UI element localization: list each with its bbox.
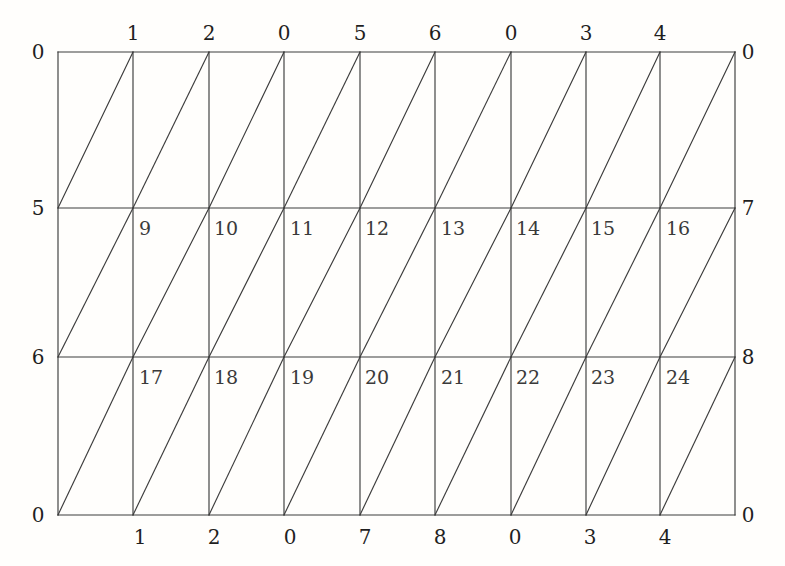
mesh-diagonal-r1-c0 bbox=[58, 208, 133, 357]
top-boundary-label-7: 4 bbox=[654, 23, 667, 43]
interior-middle-row-label-5: 14 bbox=[516, 219, 540, 238]
top-boundary-label-2: 0 bbox=[278, 23, 291, 43]
mesh-diagonal-r0-c0 bbox=[58, 52, 133, 208]
interior-middle-row-label-7: 16 bbox=[666, 219, 690, 238]
mesh-diagonal-r0-c8 bbox=[660, 52, 735, 208]
left-boundary-label-3: 0 bbox=[32, 505, 45, 525]
bottom-boundary-label-1: 2 bbox=[208, 527, 221, 547]
right-boundary-label-3: 0 bbox=[742, 505, 755, 525]
top-boundary-label-4: 6 bbox=[429, 23, 442, 43]
mesh-diagonal-r0-c7 bbox=[586, 52, 660, 208]
interior-lower-row-label-6: 23 bbox=[591, 368, 615, 387]
figure-root: 1205603412078034056007809101112131415161… bbox=[0, 0, 785, 566]
top-boundary-label-1: 2 bbox=[203, 23, 216, 43]
left-boundary-label-0: 0 bbox=[32, 42, 45, 62]
right-boundary-label-2: 8 bbox=[742, 347, 755, 367]
mesh-diagonal-r0-c6 bbox=[511, 52, 586, 208]
right-boundary-label-1: 7 bbox=[742, 198, 755, 218]
mesh-diagonal-r0-c1 bbox=[133, 52, 209, 208]
interior-middle-row-label-6: 15 bbox=[591, 219, 615, 238]
mesh-diagonal-r0-c5 bbox=[435, 52, 511, 208]
mesh-diagram bbox=[0, 0, 785, 566]
bottom-boundary-label-5: 0 bbox=[509, 527, 522, 547]
interior-middle-row-label-4: 13 bbox=[441, 219, 465, 238]
mesh-diagonal-r0-c2 bbox=[209, 52, 284, 208]
bottom-boundary-label-2: 0 bbox=[284, 527, 297, 547]
left-boundary-label-1: 5 bbox=[32, 198, 45, 218]
bottom-boundary-label-4: 8 bbox=[434, 527, 447, 547]
mesh-diagonal-r2-c0 bbox=[58, 357, 133, 515]
interior-lower-row-label-1: 18 bbox=[214, 368, 238, 387]
top-boundary-label-6: 3 bbox=[580, 23, 593, 43]
interior-lower-row-label-7: 24 bbox=[666, 368, 690, 387]
top-boundary-label-5: 0 bbox=[505, 23, 518, 43]
interior-lower-row-label-4: 21 bbox=[441, 368, 465, 387]
mesh-lines bbox=[58, 52, 735, 515]
interior-middle-row-label-3: 12 bbox=[365, 219, 389, 238]
interior-lower-row-label-5: 22 bbox=[516, 368, 540, 387]
mesh-diagonal-r0-c4 bbox=[360, 52, 435, 208]
interior-middle-row-label-1: 10 bbox=[214, 219, 238, 238]
interior-lower-row-label-3: 20 bbox=[365, 368, 389, 387]
interior-middle-row-label-2: 11 bbox=[290, 219, 314, 238]
bottom-boundary-label-7: 4 bbox=[659, 527, 672, 547]
left-boundary-label-2: 6 bbox=[32, 347, 45, 367]
right-boundary-label-0: 0 bbox=[742, 42, 755, 62]
interior-lower-row-label-2: 19 bbox=[290, 368, 314, 387]
mesh-diagonal-r0-c3 bbox=[284, 52, 360, 208]
top-boundary-label-3: 5 bbox=[354, 23, 367, 43]
bottom-boundary-label-6: 3 bbox=[584, 527, 597, 547]
bottom-boundary-label-3: 7 bbox=[359, 527, 372, 547]
top-boundary-label-0: 1 bbox=[127, 23, 140, 43]
interior-lower-row-label-0: 17 bbox=[139, 368, 163, 387]
bottom-boundary-label-0: 1 bbox=[134, 527, 147, 547]
interior-middle-row-label-0: 9 bbox=[139, 219, 151, 238]
